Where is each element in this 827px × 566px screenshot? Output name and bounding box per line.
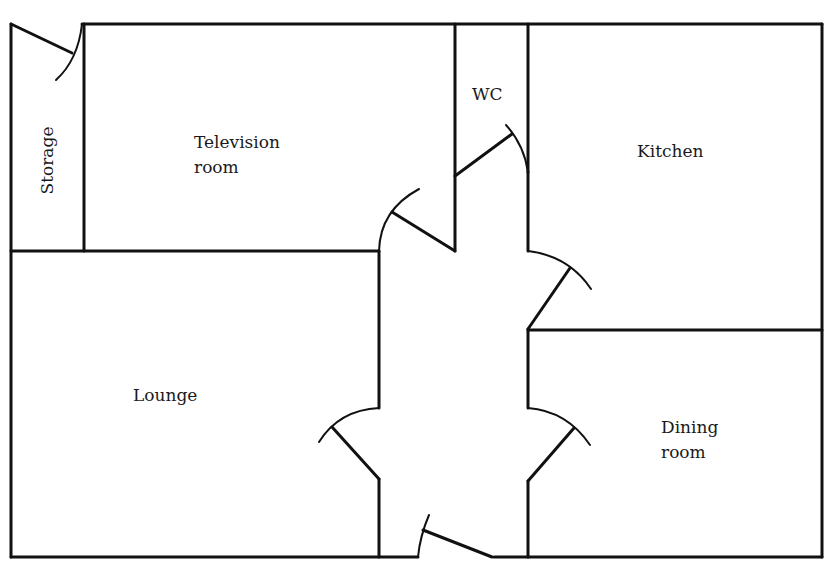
floor-plan [0,0,827,566]
front-door [418,515,492,557]
lounge-door [319,408,379,479]
kitchen-door [528,251,591,329]
interior-walls [11,24,822,557]
wc-door [455,125,528,176]
dining-room-door [528,408,590,481]
room-label-television-room: Television room [194,130,280,180]
outer-walls [11,24,822,557]
television-room-door [379,189,455,251]
room-label-lounge: Lounge [133,383,197,408]
room-label-wc: WC [472,82,502,107]
room-label-kitchen: Kitchen [637,139,703,164]
storage-door [11,24,82,80]
room-label-storage: Storage [35,121,60,201]
room-label-dining-room: Dining room [661,415,718,465]
